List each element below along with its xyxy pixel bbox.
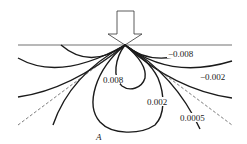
stress-contour-diagram: −0.008 −0.002 0.008 0.002 0.0005 A <box>0 0 247 144</box>
load-arrow-icon <box>108 11 142 45</box>
label-neg-0.002: −0.002 <box>200 72 225 82</box>
label-point-a: A <box>95 132 102 142</box>
label-pos-0.008: 0.008 <box>103 75 124 85</box>
label-pos-0.002: 0.002 <box>147 97 167 107</box>
contour-neg-0.002-left <box>18 45 125 67</box>
label-neg-0.008: −0.008 <box>168 49 194 59</box>
label-pos-0.0005: 0.0005 <box>180 113 205 123</box>
